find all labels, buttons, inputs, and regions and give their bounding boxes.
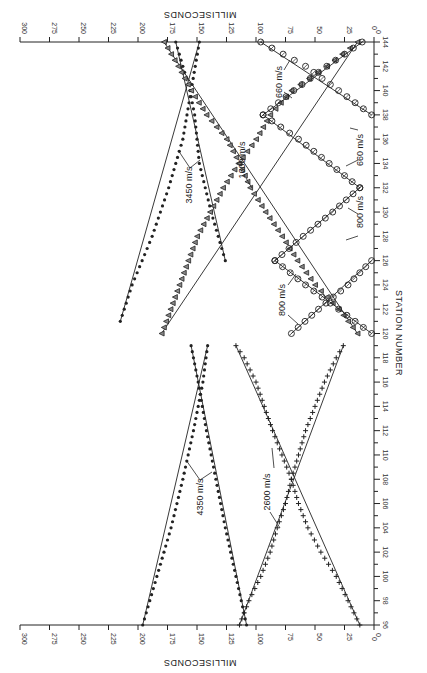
velocity-label-660-top: 660 m/s: [274, 65, 284, 98]
time-tick-label: 300: [21, 22, 28, 34]
velocity-label-3450: 3450 m/s: [184, 166, 194, 204]
station-tick-label: 130: [382, 206, 389, 218]
time-tick-label: 100: [257, 633, 264, 645]
axes: 0255075100125150175200225250275300MILLIS…: [20, 10, 404, 668]
station-tick-label: 116: [382, 376, 389, 387]
time-tick-label: 0: [375, 30, 382, 34]
time-tick-label: 75: [287, 633, 294, 641]
station-tick-label: 140: [382, 85, 389, 97]
time-tick-label: 50: [316, 633, 323, 641]
time-tick-label: 200: [139, 633, 146, 645]
velocity-label-800-upper: 800 m/s: [355, 195, 365, 228]
station-tick-label: 144: [382, 36, 389, 48]
velocity-label-800-lower: 800 m/s: [277, 283, 287, 316]
time-tick-label: 225: [110, 633, 117, 645]
station-tick-label: 136: [382, 133, 389, 145]
annotations: 4350 m/s2600 m/s3450 m/s1600 m/s800 m/s8…: [178, 60, 365, 528]
time-tick-label: 275: [51, 633, 58, 645]
station-tick-label: 122: [382, 303, 389, 315]
station-tick-label: 110: [382, 449, 389, 460]
station-tick-label: 108: [382, 473, 389, 485]
station-tick-label: 120: [382, 328, 389, 340]
station-tick-label: 96: [382, 621, 389, 629]
top-axis-title: MILLISECONDS: [163, 10, 236, 20]
station-tick-label: 142: [382, 60, 389, 72]
time-tick-label: 25: [346, 633, 353, 641]
time-tick-label: 150: [198, 633, 205, 645]
velocity-label-2600: 2600 m/s: [262, 473, 272, 511]
svg-text:0: 0: [371, 637, 378, 641]
time-tick-label: 275: [51, 22, 58, 34]
time-tick-label: 300: [21, 633, 28, 645]
station-tick-label: 124: [382, 279, 389, 291]
station-tick-label: 126: [382, 255, 389, 267]
station-tick-label: 104: [382, 522, 389, 534]
fit-line: [236, 346, 360, 625]
time-tick-label: 250: [80, 633, 87, 645]
time-tick-label: 25: [346, 26, 353, 34]
station-tick-label: 106: [382, 498, 389, 510]
time-tick-label: 250: [80, 22, 87, 34]
station-axis-title: STATION NUMBER: [394, 290, 404, 376]
station-tick-label: 132: [382, 182, 389, 194]
station-tick-label: 102: [382, 546, 389, 558]
velocity-label-1600: 1600 m/s: [237, 141, 247, 179]
station-tick-label: 100: [382, 571, 389, 583]
plot-area: [119, 39, 375, 628]
station-tick-label: 134: [382, 158, 389, 170]
time-tick-label: 150: [198, 22, 205, 34]
time-tick-label: 125: [228, 633, 235, 645]
station-tick-label: 128: [382, 230, 389, 242]
station-tick-label: 114: [382, 401, 389, 412]
bottom-axis-title: MILLISECONDS: [163, 658, 236, 668]
time-tick-label: 75: [287, 26, 294, 34]
velocity-label-4350: 4350 m/s: [195, 478, 205, 516]
time-tick-label: 50: [316, 26, 323, 34]
station-tick-label: 118: [382, 352, 389, 363]
time-tick-label: 200: [139, 22, 146, 34]
time-tick-label: 125: [228, 22, 235, 34]
time-tick-label: 225: [110, 22, 117, 34]
time-tick-label: 100: [257, 22, 264, 34]
time-tick-label: 175: [169, 22, 176, 34]
svg-text:0: 0: [371, 26, 378, 30]
station-tick-label: 138: [382, 109, 389, 121]
station-tick-label: 98: [382, 597, 389, 605]
station-tick-label: 112: [382, 425, 389, 436]
seismic-travel-time-chart: 0255075100125150175200225250275300MILLIS…: [0, 0, 427, 673]
time-tick-label: 175: [169, 633, 176, 645]
